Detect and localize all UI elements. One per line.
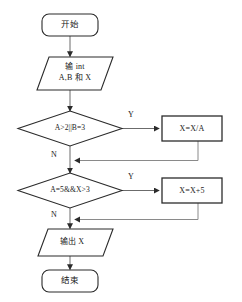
node-start-shape[interactable]: [42, 14, 98, 36]
edge-process1-to-merge1: [75, 141, 198, 161]
flowchart-svg: [0, 0, 242, 302]
flowchart-canvas: 开始 输 int A,B 和 X A>2||B=3 X=X/A A=5&&X>3…: [0, 0, 242, 302]
node-end-shape[interactable]: [42, 270, 98, 292]
node-input-shape[interactable]: [37, 57, 113, 90]
node-process2-shape[interactable]: [162, 178, 222, 203]
node-output-shape[interactable]: [38, 229, 113, 256]
node-decision1-shape[interactable]: [18, 111, 122, 146]
edge-process2-to-merge2: [75, 203, 198, 220]
node-decision2-shape[interactable]: [18, 173, 122, 208]
node-process1-shape[interactable]: [162, 116, 222, 141]
